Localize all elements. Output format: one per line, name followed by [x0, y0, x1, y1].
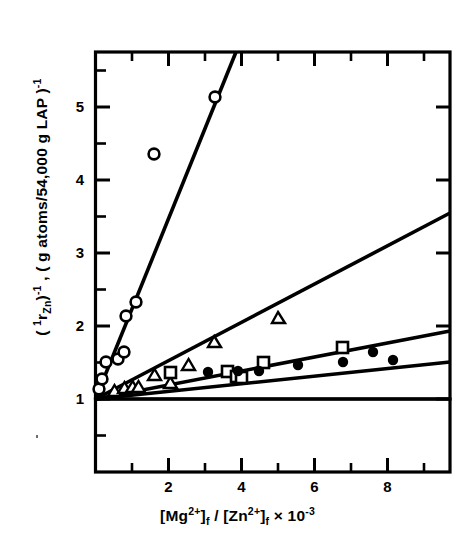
data-point: [388, 355, 398, 365]
data-point: [97, 374, 108, 385]
x-tick-label-2: 2: [156, 478, 182, 495]
data-point: [131, 297, 142, 308]
data-point: [210, 92, 221, 103]
data-point: [119, 347, 130, 358]
y-tick-label-4: 4: [58, 171, 84, 188]
data-point: [337, 342, 348, 353]
y-axis-major-ticks: [96, 107, 111, 399]
data-point: [121, 311, 132, 322]
plot-svg: [0, 0, 475, 560]
x-tick-label-8: 8: [375, 478, 401, 495]
data-point: [233, 366, 243, 376]
x-tick-label-6: 6: [302, 478, 328, 495]
data-point: [149, 149, 160, 160]
axes-box: [96, 52, 451, 399]
regression-lines: [96, 52, 451, 399]
y-tick-label-2: 2: [58, 317, 84, 334]
y-axis-right-major-ticks: [436, 107, 450, 399]
y-tick-label-5: 5: [58, 98, 84, 115]
x-tick-label-4: 4: [229, 478, 255, 495]
fit-line-open-triangle: [96, 213, 451, 399]
data-point: [338, 357, 348, 367]
axes-box-lower: [96, 399, 451, 472]
data-point: [182, 359, 195, 370]
data-point: [165, 367, 176, 378]
data-point: [293, 360, 303, 370]
data-point: [254, 366, 264, 376]
data-point: [272, 312, 285, 323]
figure-canvas: ( 1rZn)-1 , ( g atoms/54,000 g LAP )-1 […: [0, 0, 475, 560]
data-point: [368, 347, 378, 357]
data-point: [101, 357, 112, 368]
y-tick-label-1: 1: [58, 390, 84, 407]
y-tick-label-3: 3: [58, 244, 84, 261]
data-point: [203, 367, 213, 377]
plot-frame: [96, 52, 451, 472]
fit-line-open-square: [96, 331, 451, 399]
